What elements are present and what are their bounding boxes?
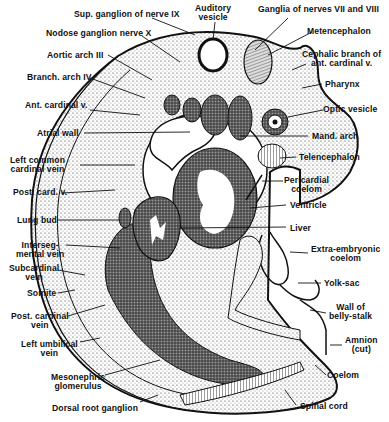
label-ant-cardinal: Ant. cardinal v.: [25, 101, 88, 110]
label-somite: Somite: [27, 289, 56, 298]
label-pericardial-coelom: Pericardialcoelom: [284, 176, 329, 194]
label-aortic-arch: Aortic arch III: [47, 51, 103, 60]
label-wall-belly-stalk: Wall ofbelly-stalk: [329, 303, 372, 321]
label-branch-arch: Branch. arch IV: [27, 73, 92, 82]
label-cephalic-branch: Cephalic branch ofant. cardinal v.: [302, 50, 381, 68]
label-atrial-wall: Atrial wall: [37, 129, 79, 138]
label-subcardinal-vein: Subcardinalvein: [9, 264, 59, 282]
label-metencephalon: Metencephalon: [307, 27, 371, 36]
label-intersegmental-vein: Interseg-mental vein: [16, 241, 64, 259]
label-dorsal-root-ganglion: Dorsal root ganglion: [52, 404, 138, 413]
label-left-common-cardinal: Left commoncardinal vein: [10, 156, 65, 174]
label-auditory-vesicle: Auditoryvesicle: [195, 4, 231, 22]
label-sup-ganglion: Sup. ganglion of nerve IX: [74, 10, 180, 19]
label-extra-embryonic-coelom: Extra-embryoniccoelom: [311, 245, 380, 263]
label-optic-vesicle: Optic vesicle: [323, 105, 377, 114]
label-amnion-cut: Amnion(cut): [345, 336, 378, 354]
label-post-cardinal-vein: Post. cardinalvein: [11, 312, 69, 330]
label-mesonephric-glomerulus: Mesonephricglomerulus: [51, 373, 105, 391]
label-coelom: Coelom: [327, 371, 359, 380]
label-mand-arch: Mand. arch: [312, 132, 358, 141]
optic-vesicle: [262, 109, 288, 135]
label-nodose-ganglion: Nodose ganglion nerve X: [46, 29, 151, 38]
label-spinal-cord: Spinal cord: [300, 402, 348, 411]
auditory-vesicle: [199, 39, 227, 71]
label-post-card-v: Post. card. v.: [13, 188, 67, 197]
telencephalon: [258, 144, 286, 168]
label-ganglia-vii-viii: Ganglia of nerves VII and VIII: [258, 5, 379, 14]
label-ventricle: Ventricle: [290, 201, 327, 210]
label-liver: Liver: [290, 224, 311, 233]
label-lung-bud: Lung bud: [17, 216, 57, 225]
label-left-umbilical-vein: Left umbilicalvein: [21, 340, 78, 358]
lung-bud: [119, 208, 131, 228]
label-yolk-sac: Yolk-sac: [324, 279, 360, 288]
label-telencephalon: Telencephalon: [299, 153, 360, 162]
label-pharynx: Pharynx: [325, 80, 360, 89]
